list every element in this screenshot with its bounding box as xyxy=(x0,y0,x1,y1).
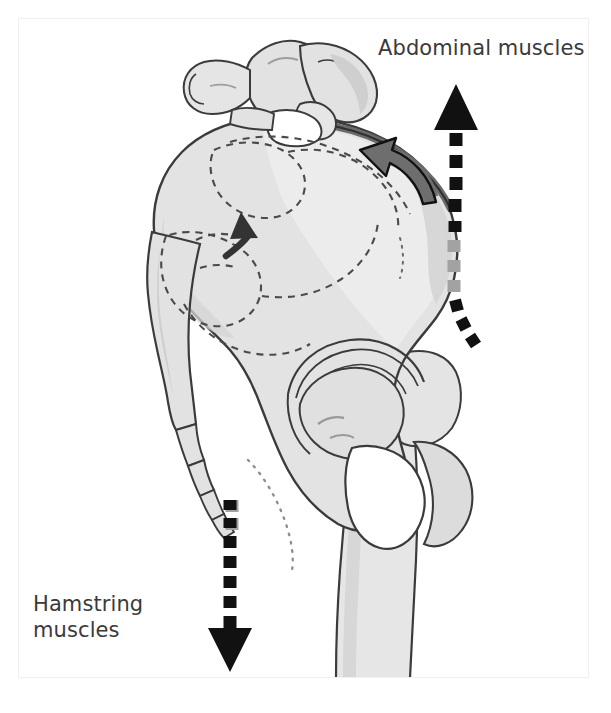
ischial-dotted-guide xyxy=(248,460,293,570)
sacrum xyxy=(147,232,200,430)
label-abdominal-muscles: Abdominal muscles xyxy=(378,36,585,62)
label-hamstring-muscles: Hamstring muscles xyxy=(33,592,143,643)
figure-root: Abdominal muscles Hamstring muscles xyxy=(0,0,611,713)
